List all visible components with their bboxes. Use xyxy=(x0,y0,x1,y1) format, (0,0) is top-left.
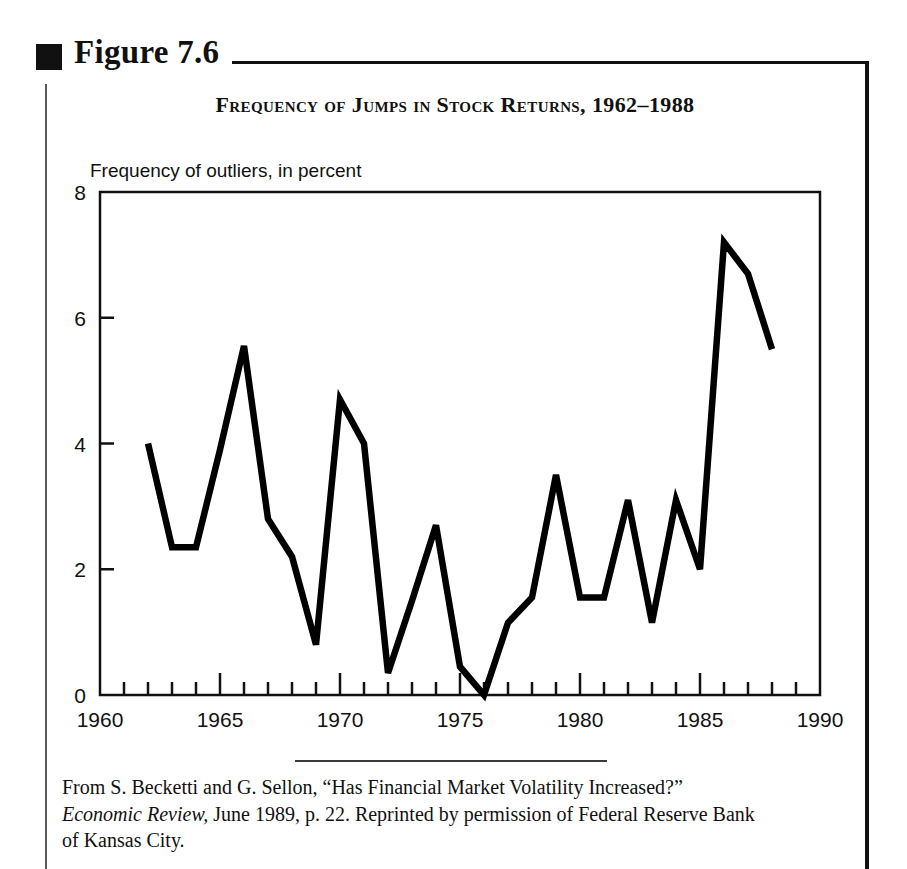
y-tick-label: 4 xyxy=(74,433,86,456)
source-caption: From S. Becketti and G. Sellon, “Has Fin… xyxy=(62,774,762,854)
y-tick-label: 6 xyxy=(74,307,86,330)
x-tick-label: 1970 xyxy=(317,708,364,731)
x-tick-label: 1965 xyxy=(197,708,244,731)
caption-separator-rule xyxy=(295,760,607,762)
caption-text-part1: From S. Becketti and G. Sellon, “Has Fin… xyxy=(62,776,683,798)
figure-header: Figure 7.6 xyxy=(0,0,907,80)
figure-label: Figure 7.6 xyxy=(74,34,219,71)
x-tick-label: 1960 xyxy=(77,708,124,731)
y-axis-ticks: 02468 xyxy=(74,181,114,707)
y-tick-label: 0 xyxy=(74,684,86,707)
x-tick-label: 1985 xyxy=(677,708,724,731)
y-tick-label: 2 xyxy=(74,558,86,581)
data-series-line xyxy=(148,242,772,695)
x-tick-label: 1975 xyxy=(437,708,484,731)
caption-journal-name: Economic Review, xyxy=(62,803,208,825)
x-axis-ticks: 1960196519701975198019851990 xyxy=(77,673,844,731)
y-tick-label: 8 xyxy=(74,181,86,204)
filled-square-icon xyxy=(36,44,62,70)
chart-plot-area: 02468 1960196519701975198019851990 xyxy=(40,150,870,750)
line-chart-svg: 02468 1960196519701975198019851990 xyxy=(40,150,870,750)
header-rule-horizontal xyxy=(232,61,868,64)
x-tick-label: 1990 xyxy=(797,708,844,731)
x-tick-label: 1980 xyxy=(557,708,604,731)
figure-page: Figure 7.6 Frequency of Jumps in Stock R… xyxy=(0,0,907,869)
chart-title: Frequency of Jumps in Stock Returns, 196… xyxy=(60,92,850,118)
